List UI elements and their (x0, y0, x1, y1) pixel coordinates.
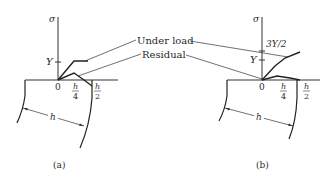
origin-label-b: 0 (259, 82, 265, 92)
three-y-half-label-b: 3Y/2 (266, 39, 287, 49)
h-half-den-a: 2 (95, 92, 100, 101)
caption-b: (b) (256, 160, 269, 170)
h-quarter-num-b: h (281, 82, 286, 91)
arrowhead-right-b (288, 124, 293, 127)
arrowhead-left-a (23, 108, 28, 111)
beam-right-edge-b (289, 80, 297, 139)
h-quarter-num-a: h (73, 82, 78, 91)
h-half-den-b: 2 (304, 92, 309, 101)
h-quarter-den-b: 4 (281, 92, 286, 101)
under-load-leader-a (85, 40, 136, 61)
residual-label: Residual (142, 49, 186, 60)
width-label-a: h (50, 112, 56, 122)
h-half-num-b: h (304, 82, 309, 91)
arrowhead-right-a (79, 124, 84, 127)
caption-a: (a) (53, 160, 65, 170)
panel-b: σ 3Y/2 Y 0 h 4 h 2 h (b) (219, 14, 320, 170)
width-label-b: h (256, 112, 262, 122)
beam-left-edge-a (17, 80, 25, 123)
beam-left-edge-b (219, 80, 227, 121)
h-quarter-den-a: 4 (73, 92, 78, 101)
beam-right-edge-a (80, 80, 92, 148)
stress-distribution-diagram: σ Y 0 h 4 h 2 h (a) Under load Residual (0, 0, 334, 178)
sigma-label-b: σ (253, 14, 260, 24)
arrowhead-left-b (225, 108, 230, 111)
residual-leader-a (78, 54, 141, 76)
h-half-num-a: h (95, 82, 100, 91)
panel-a: σ Y 0 h 4 h 2 h (a) (17, 14, 118, 170)
under-load-label: Under load (137, 35, 194, 46)
residual-curve-b (262, 76, 300, 80)
under-load-curve-a (58, 61, 88, 80)
origin-label-a: 0 (55, 82, 61, 92)
y-tick-label-b: Y (250, 54, 258, 65)
y-tick-label-a: Y (46, 56, 54, 67)
sigma-label-a: σ (49, 14, 56, 24)
